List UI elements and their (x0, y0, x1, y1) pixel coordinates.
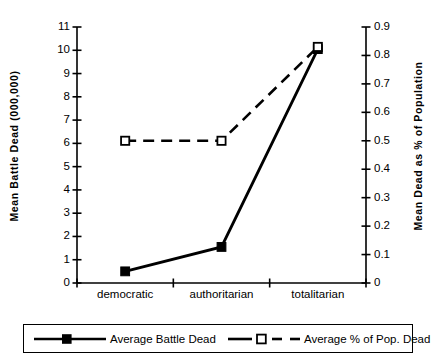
chart-figure: Mean Battle Dead (000,000) Mean Dead as … (0, 0, 439, 364)
legend-label: Average Battle Dead (110, 333, 216, 345)
x-axis-category-label: authoritarian (190, 288, 254, 300)
legend-swatch-solid-filled-square (34, 332, 106, 346)
plot-area (0, 0, 439, 364)
series-data-point (314, 43, 322, 51)
legend-swatch-dashed-open-square (228, 332, 300, 346)
series-data-point (217, 243, 226, 252)
series-line (125, 47, 318, 141)
chart-legend: Average Battle Dead Average % of Pop. De… (23, 324, 413, 353)
series-line (125, 49, 318, 271)
data-series-layer (121, 43, 322, 276)
x-axis-category-label: totalitarian (291, 288, 344, 300)
series-data-point (121, 137, 129, 145)
x-axis-category-label: democratic (97, 288, 153, 300)
legend-label: Average % of Pop. Dead (304, 333, 430, 345)
legend-item-average-pct-pop-dead: Average % of Pop. Dead (228, 325, 430, 352)
series-data-point (217, 137, 225, 145)
x-axis-category-labels: democraticauthoritariantotalitarian (77, 288, 366, 306)
legend-item-average-battle-dead: Average Battle Dead (34, 325, 216, 352)
series-data-point (121, 267, 130, 276)
